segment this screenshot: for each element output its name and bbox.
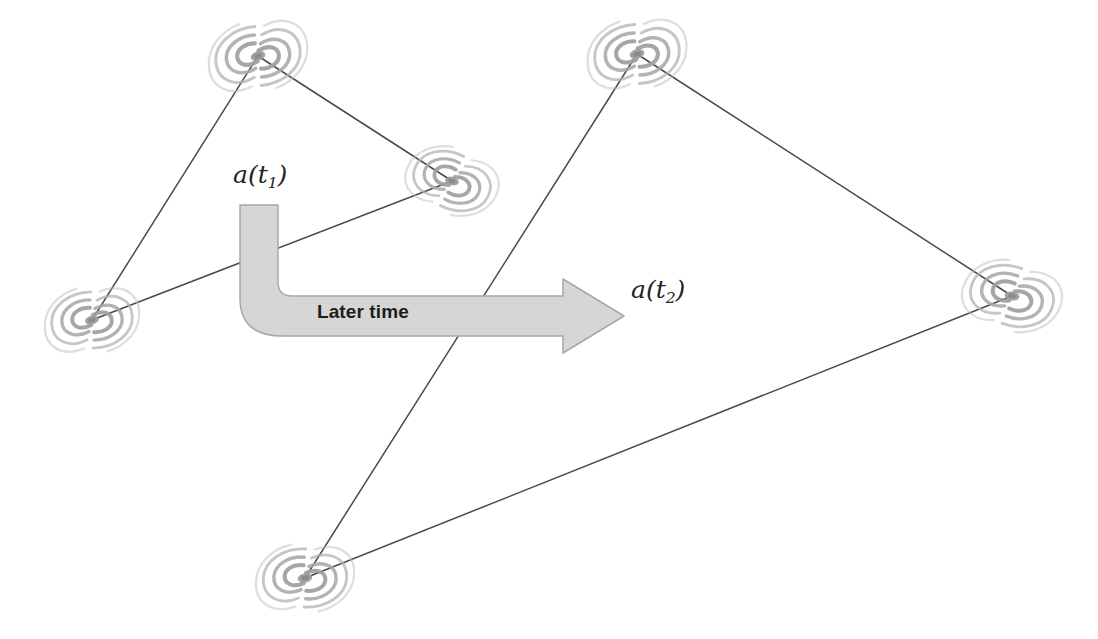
- scale-factor-early-close: ): [278, 160, 288, 189]
- scale-factor-late-close: ): [676, 275, 686, 304]
- scale-factor-label-late: a(t2): [631, 275, 685, 304]
- figure-root: a(t1) a(t2) Later time: [0, 0, 1098, 639]
- scale-factor-late-base: a(t: [631, 275, 666, 304]
- later-time-arrow-caption: Later time: [317, 301, 409, 323]
- later-time-arrow-shape: [240, 205, 624, 353]
- galaxy-right: [958, 254, 1067, 338]
- scale-factor-early-subscript: 1: [268, 174, 278, 192]
- galaxy-mid: [399, 138, 506, 225]
- scale-factor-late-subscript: 2: [666, 289, 676, 307]
- diagram-canvas: [0, 0, 1098, 639]
- triangle-edge-late-right-topright: [637, 54, 1012, 296]
- galaxy-top-right: [578, 5, 696, 102]
- scale-factor-label-early: a(t1): [233, 160, 287, 189]
- galaxy-top-left: [198, 6, 317, 106]
- scale-factor-early-base: a(t: [233, 160, 268, 189]
- galaxy-left: [37, 275, 147, 365]
- later-time-arrow: [240, 205, 624, 353]
- galaxy-bottom: [250, 535, 361, 622]
- triangle-edge-late-bottom-right: [305, 296, 1012, 578]
